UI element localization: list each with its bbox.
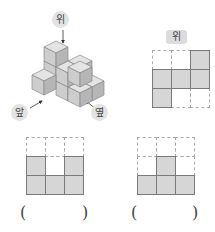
- label-front: 앞: [11, 104, 28, 121]
- empty-cell: [171, 50, 191, 70]
- filled-cell: [26, 175, 46, 195]
- empty-cell: [137, 137, 157, 157]
- empty-cell: [171, 88, 191, 108]
- filled-cell: [171, 69, 191, 89]
- top-view-label: 위: [166, 30, 187, 44]
- answer-open-paren-1: (: [20, 203, 26, 223]
- filled-cell: [26, 156, 46, 176]
- filled-cell: [190, 50, 210, 70]
- answer-view-grid-1: [26, 137, 83, 194]
- empty-cell: [45, 137, 65, 157]
- empty-cell: [156, 137, 176, 157]
- filled-cell: [64, 175, 84, 195]
- answer-blank-2[interactable]: [141, 203, 191, 223]
- filled-cell: [156, 156, 176, 176]
- answer-blank-1[interactable]: [30, 203, 80, 223]
- answer-close-paren-1: ): [82, 203, 88, 223]
- answer-open-paren-2: (: [131, 203, 137, 223]
- filled-cell: [152, 69, 172, 89]
- filled-cell: [156, 175, 176, 195]
- filled-cell: [175, 175, 195, 195]
- top-view-grid: [152, 50, 209, 107]
- answer-close-paren-2: ): [192, 203, 198, 223]
- empty-cell: [64, 137, 84, 157]
- label-side: 옆: [91, 104, 108, 121]
- filled-cell: [64, 156, 84, 176]
- filled-cell: [190, 69, 210, 89]
- label-top: 위: [52, 11, 69, 28]
- filled-cell: [45, 175, 65, 195]
- empty-cell: [175, 156, 195, 176]
- front-arrow-icon: [30, 101, 42, 108]
- filled-cell: [137, 175, 157, 195]
- empty-cell: [175, 137, 195, 157]
- empty-cell: [152, 50, 172, 70]
- answer-view-grid-2: [137, 137, 194, 194]
- empty-cell: [26, 137, 46, 157]
- empty-cell: [137, 156, 157, 176]
- filled-cell: [152, 88, 172, 108]
- empty-cell: [45, 156, 65, 176]
- empty-cell: [190, 88, 210, 108]
